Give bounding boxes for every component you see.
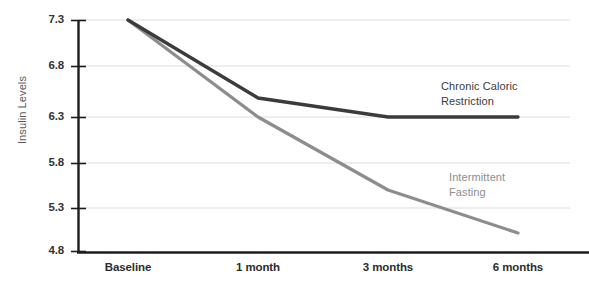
y-tick-label-1: 6.8 [30, 59, 64, 71]
y-tick-label-0: 7.3 [30, 13, 64, 25]
x-tick-label-6-months: 6 months [463, 261, 573, 273]
x-tick-label-1-month: 1 month [203, 261, 313, 273]
y-tick-label-3: 5.8 [30, 156, 64, 168]
y-axis-title: Insulin Levels [16, 40, 28, 180]
x-tick-label-3-months: 3 months [333, 261, 443, 273]
plot-area [0, 0, 589, 291]
axis-lines [77, 20, 589, 253]
x-tick-label-baseline: Baseline [73, 261, 183, 273]
y-tick-label-2: 6.3 [30, 110, 64, 122]
y-tick-label-4: 5.3 [30, 201, 64, 213]
series-label-chronic-caloric-restriction: Chronic Caloric Restriction [441, 79, 518, 108]
y-tick-label-5: 4.8 [30, 244, 64, 256]
series-line-intermittent-fasting [128, 20, 518, 233]
series-label-intermittent-fasting: Intermittent Fasting [449, 170, 505, 199]
line-chart: Insulin Levels 7.3 6.8 6.3 5.8 5.3 4.8 B… [0, 0, 589, 291]
